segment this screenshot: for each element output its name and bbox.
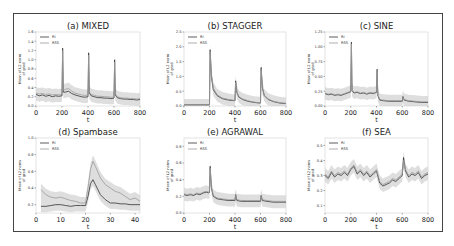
subplot-c: 0.000.250.500.751.001.250200400600800tMe… — [299, 30, 436, 126]
y-tick-label: 1.2 — [28, 49, 34, 53]
x-tick-label: 10 — [57, 216, 65, 224]
y-tick-label: 0.2 — [28, 203, 34, 207]
y-tick-label: 1.0 — [176, 75, 182, 79]
y-tick-label: 1.6 — [28, 30, 34, 34]
x-tick-label: 600 — [396, 109, 408, 117]
y-tick-label: 0.6 — [176, 161, 182, 165]
y-tick-label: 0.2 — [28, 95, 34, 99]
legend-label: RI — [341, 35, 345, 39]
y-tick-label: 0.8 — [28, 67, 34, 71]
y-tick-label: 0.8 — [28, 153, 34, 157]
y-tick-label: 0.5 — [317, 144, 323, 148]
y-tick-label: 0.5 — [176, 90, 182, 94]
x-axis-label: t — [234, 116, 237, 124]
subplot-a: 0.00.20.40.60.81.01.21.41.60200400600800… — [10, 30, 148, 126]
legend-label: RI — [200, 141, 204, 145]
y-tick-label: 0.2 — [176, 195, 182, 199]
y-tick-label: 0.4 — [176, 178, 182, 182]
x-tick-label: 0 — [323, 216, 327, 224]
y-axis-label: Mean of L2 normof grad — [18, 160, 26, 191]
x-tick-label: 800 — [280, 109, 292, 117]
y-tick-label: 1.0 — [28, 136, 34, 140]
x-tick-label: 200 — [345, 109, 357, 117]
x-tick-label: 0 — [34, 109, 38, 117]
x-tick-label: 200 — [203, 109, 215, 117]
x-tick-label: 0 — [182, 216, 186, 224]
y-tick-label: 0.50 — [314, 75, 323, 79]
legend-label: RSS — [200, 147, 208, 151]
legend-label: RI — [52, 141, 56, 145]
y-tick-label: 0.1 — [317, 204, 323, 208]
y-axis-label: Mean of L2 normof grad — [166, 53, 174, 84]
x-axis-label: t — [234, 223, 237, 231]
x-tick-label: 30 — [106, 216, 114, 224]
x-tick-label: 800 — [422, 109, 434, 117]
legend-label: RI — [200, 35, 204, 39]
x-tick-label: 600 — [396, 216, 408, 224]
x-tick-label: 200 — [345, 216, 357, 224]
x-axis-label: t — [375, 116, 378, 124]
legend-label: RSS — [200, 41, 208, 45]
x-tick-label: 800 — [280, 216, 292, 224]
y-axis-label: Mean of L2 normof grad — [307, 160, 315, 191]
x-axis-label: t — [375, 223, 378, 231]
y-tick-label: 1.25 — [314, 30, 322, 34]
x-tick-label: 200 — [56, 109, 68, 117]
y-axis-label: Mean of L2 normof grad — [18, 53, 26, 84]
x-tick-label: 800 — [134, 109, 146, 117]
y-tick-label: 2.0 — [176, 45, 182, 49]
y-tick-label: 0.3 — [317, 174, 323, 178]
y-tick-label: 1.5 — [176, 60, 182, 64]
y-tick-label: 0.4 — [28, 86, 34, 90]
x-axis-label: t — [87, 116, 90, 124]
x-tick-label: 0 — [34, 216, 38, 224]
legend-label: RSS — [52, 147, 60, 151]
legend-label: RI — [52, 35, 56, 39]
x-tick-label: 40 — [131, 216, 139, 224]
legend-label: RSS — [52, 41, 60, 45]
y-tick-label: 0.25 — [314, 90, 322, 94]
subplot-f: 0.10.20.30.40.50200400600800tMean of L2 … — [299, 136, 436, 233]
subplot-d: 0.20.40.60.81.0010203040tMean of L2 norm… — [10, 136, 148, 233]
subplot-e: 0.00.20.40.60.80200400600800tMean of L2 … — [158, 136, 294, 233]
x-tick-label: 600 — [254, 216, 266, 224]
y-axis-label: Mean of L2 normof grad — [307, 53, 315, 84]
legend-label: RSS — [341, 147, 349, 151]
x-tick-label: 800 — [422, 216, 434, 224]
y-tick-label: 0.2 — [317, 189, 323, 193]
y-tick-label: 1.4 — [28, 40, 34, 44]
x-tick-label: 0 — [323, 109, 327, 117]
x-tick-label: 0 — [182, 109, 186, 117]
legend-label: RSS — [341, 41, 349, 45]
y-tick-label: 0.4 — [317, 159, 323, 163]
legend-label: RI — [341, 141, 345, 145]
y-tick-label: 0.6 — [28, 77, 34, 81]
x-tick-label: 600 — [254, 109, 266, 117]
y-tick-label: 0.8 — [176, 145, 182, 149]
x-tick-label: 600 — [108, 109, 120, 117]
y-tick-label: 0.75 — [314, 60, 322, 64]
y-tick-label: 0.4 — [28, 186, 34, 190]
y-tick-label: 1.00 — [314, 45, 323, 49]
x-axis-label: t — [87, 223, 90, 231]
y-tick-label: 2.5 — [176, 30, 182, 34]
y-axis-label: Mean of L2 normof grad — [166, 160, 174, 191]
y-tick-label: 0.00 — [314, 104, 323, 108]
x-tick-label: 200 — [203, 216, 215, 224]
y-tick-label: 0.6 — [28, 170, 34, 174]
y-tick-label: 1.0 — [28, 58, 34, 62]
subplot-b: 0.00.51.01.52.02.50200400600800tMean of … — [158, 30, 294, 126]
